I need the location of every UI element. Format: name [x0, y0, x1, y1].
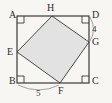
right-angle-mark-b	[17, 76, 24, 83]
right-angle-mark-a	[17, 16, 24, 23]
vertex-label-g: G	[92, 37, 99, 47]
geometry-figure: A D C B H G F E 4 5	[0, 0, 112, 103]
vertex-label-a: A	[9, 10, 16, 20]
vertex-label-c: C	[92, 76, 99, 86]
vertex-label-f: F	[58, 86, 64, 96]
right-angle-mark-d	[82, 16, 89, 23]
right-angle-mark-c	[82, 76, 89, 83]
measurement-label-bf: 5	[36, 88, 41, 98]
vertex-label-h: H	[47, 3, 54, 13]
vertex-label-b: B	[9, 76, 16, 86]
vertex-label-e: E	[7, 47, 13, 57]
vertex-label-d: D	[92, 10, 99, 20]
inner-square-efgh	[17, 16, 89, 83]
measurement-label-dg: 4	[92, 24, 97, 34]
